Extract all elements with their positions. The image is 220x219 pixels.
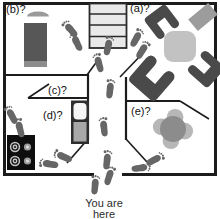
you-are-here-caption-line2: here [93, 208, 115, 219]
footprint-icon [102, 150, 113, 170]
bed-foot-trim [24, 61, 47, 67]
stove-icon [7, 135, 35, 170]
floor-plan-figure: (b)? (a)? (c)? (d)? (e)? You are here [0, 0, 220, 218]
table-icon [164, 31, 196, 62]
sideboard-icon [188, 3, 218, 31]
room-c-label: (c)? [48, 84, 67, 96]
room-e-label: (e)? [131, 105, 151, 117]
floor-plan-map: (b)? (a)? (c)? (d)? (e)? You are here [0, 0, 220, 218]
rug-icon [27, 12, 49, 17]
footprint-icon [90, 175, 101, 195]
footprint-icon [144, 151, 165, 168]
bed-icon [24, 23, 47, 67]
footprint-icon [105, 79, 116, 99]
footprint-icon [98, 117, 109, 137]
footprint-icon [61, 19, 80, 40]
refrigerator-icon [71, 101, 89, 145]
room-a-label: (a)? [130, 2, 150, 14]
door-room-e-a [180, 101, 209, 119]
footprint-icon [92, 52, 106, 73]
footprint-icon [39, 158, 59, 170]
door-room-c [28, 84, 49, 98]
door-room-e-hall [126, 139, 147, 162]
door-lines [28, 52, 209, 163]
room-d-label: (d)? [43, 109, 63, 121]
room-b-label: (b)? [6, 3, 26, 15]
round-table-icon [153, 109, 193, 149]
room-b-furniture [24, 12, 49, 68]
